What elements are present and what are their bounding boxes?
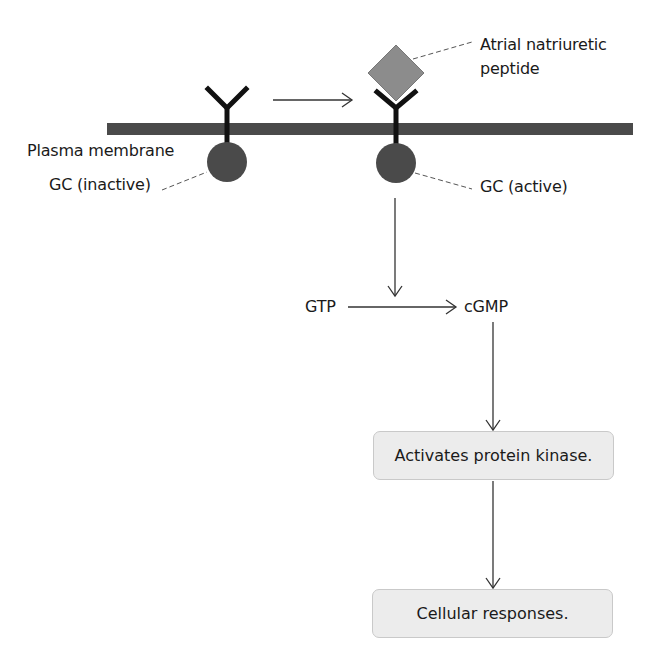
label-anp-line2: peptide [480,59,539,79]
gc-inactive-receptor [207,89,247,182]
label-gtp: GTP [305,297,336,317]
plasma-membrane [107,123,633,135]
arrow-gtp-to-cgmp [348,300,456,314]
arrow-gc-to-reaction [388,198,402,296]
pathway-diagram [0,0,666,663]
box-activates-protein-kinase: Activates protein kinase. [373,431,614,480]
receptor-y-arms [208,89,246,108]
arrow-cgmp-to-kinase [486,322,500,430]
leader-anp [413,42,472,59]
gc-inactive-enzyme [207,142,247,182]
label-gc-active: GC (active) [480,177,568,197]
box-cellular-responses: Cellular responses. [372,589,613,638]
gc-active-enzyme [376,143,416,183]
leader-gc-inactive [162,172,207,190]
label-gc-inactive: GC (inactive) [49,175,151,195]
gc-active-receptor [368,45,424,183]
label-anp-line1: Atrial natriuretic [480,35,607,55]
label-cgmp: cGMP [464,297,508,317]
arrow-kinase-to-responses [486,481,500,588]
label-plasma-membrane: Plasma membrane [27,141,174,161]
leader-gc-active [415,173,472,189]
activation-arrow [273,93,352,107]
